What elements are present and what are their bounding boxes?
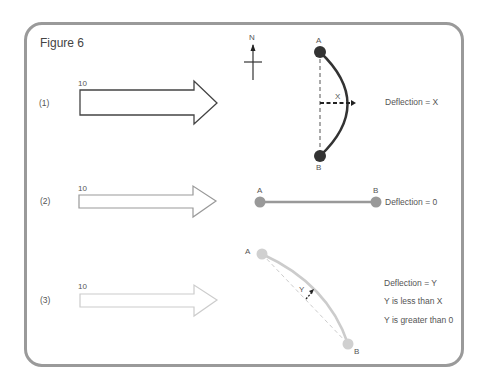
row-3-index: (3) <box>40 295 50 305</box>
row-1-point-a: A <box>316 36 321 45</box>
row-2-force-label: 10 <box>78 184 87 193</box>
row-2-point-b: B <box>373 186 378 195</box>
compass-icon <box>244 44 262 80</box>
row-1-point-b: B <box>316 163 321 172</box>
figure-title: Figure 6 <box>40 36 84 50</box>
row-3-note-1: Deflection = Y <box>384 278 437 288</box>
row-3-note-2: Y is less than X <box>384 296 442 306</box>
beam-2 <box>255 197 382 208</box>
force-arrow-3 <box>80 285 217 316</box>
force-arrow-1 <box>80 81 217 124</box>
row-2-note: Deflection = 0 <box>385 197 437 207</box>
beam-1 <box>314 46 356 162</box>
row-1-force-label: 10 <box>78 79 87 88</box>
compass-north-label: N <box>249 33 255 42</box>
row-3-note-3: Y is greater than 0 <box>384 315 453 325</box>
row-3-force-label: 10 <box>78 282 87 291</box>
row-1-deflection-var: X <box>335 92 340 101</box>
row-3-deflection-var: Y <box>299 285 304 294</box>
row-1-index: (1) <box>39 98 49 108</box>
row-1-note: Deflection = X <box>385 97 438 107</box>
row-2-index: (2) <box>40 196 50 206</box>
force-arrow-2 <box>79 186 216 217</box>
row-3-point-a: A <box>245 247 250 256</box>
row-3-point-b: B <box>354 347 359 356</box>
row-2-point-a: A <box>257 186 262 195</box>
beam-3 <box>257 249 354 350</box>
figure-diagram <box>0 0 488 384</box>
